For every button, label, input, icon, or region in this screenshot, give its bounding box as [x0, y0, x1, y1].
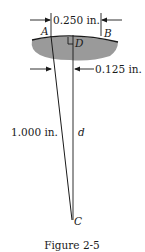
- point-a-label: A: [40, 25, 49, 37]
- point-c-label: C: [74, 215, 82, 227]
- point-d-label: D: [74, 37, 84, 49]
- chord-dimension-label: 0.250 in.: [53, 14, 100, 26]
- segment-d-label: d: [78, 126, 85, 138]
- arrowhead-right-icon: [45, 18, 51, 23]
- point-b-label: B: [103, 27, 112, 39]
- geometry-diagram: 0.250 in. A B D 0.125 in. 1.000 in. d C …: [0, 0, 145, 252]
- arrowhead-left-icon: [74, 67, 80, 72]
- radius-dimension-label: 1.000 in.: [11, 126, 58, 138]
- figure-caption: Figure 2-5: [44, 239, 100, 251]
- arrowhead-right-icon: [46, 67, 52, 72]
- arrowhead-left-icon: [101, 18, 107, 23]
- half-chord-dimension-label: 0.125 in.: [95, 63, 142, 75]
